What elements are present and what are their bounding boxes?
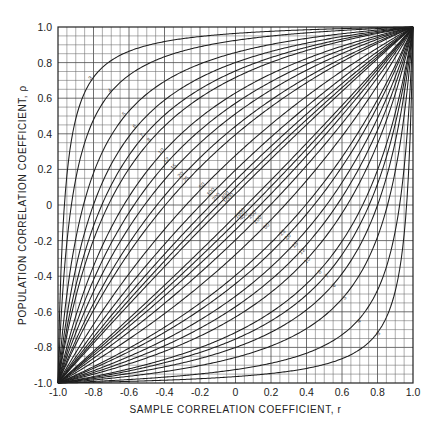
- x-axis-title: SAMPLE CORRELATION COEFFICIENT, r: [130, 404, 342, 415]
- y-tick-label: 1.0: [37, 21, 52, 33]
- y-tick-label: 0.2: [37, 163, 52, 175]
- x-tick-label: -0.4: [155, 386, 173, 398]
- y-tick-label: 0: [46, 199, 52, 211]
- x-tick-label: 0.2: [264, 386, 279, 398]
- y-tick-label: 0.8: [37, 57, 52, 69]
- curve-label-lower-n-8: 8: [316, 268, 322, 274]
- y-tick-label: -0.2: [34, 235, 52, 247]
- curve-label-upper-n-50: 50: [198, 181, 207, 190]
- plot-grid: [58, 27, 413, 383]
- x-axis-tick-labels: -1.0-0.8-0.6-0.4-0.200.20.40.60.81.0: [49, 386, 420, 398]
- y-axis-title: POPULATION CORRELATION COEFFICIENT, ρ: [17, 85, 28, 325]
- curve-label-upper-n-12: 12: [162, 156, 171, 165]
- curve-label-lower-n-10: 10: [303, 256, 312, 265]
- y-tick-label: 0.6: [37, 92, 52, 104]
- x-tick-label: -0.8: [84, 386, 102, 398]
- x-tick-label: 0.4: [299, 386, 314, 398]
- x-tick-label: 1.0: [406, 386, 421, 398]
- y-tick-label: -0.6: [34, 306, 52, 318]
- curve-label-upper-n-10: 10: [157, 147, 166, 156]
- x-tick-label: 0: [233, 386, 239, 398]
- y-tick-label: -0.4: [34, 270, 52, 282]
- x-tick-label: 0.8: [370, 386, 385, 398]
- x-tick-label: -0.2: [191, 386, 209, 398]
- confidence-belt-chart: 3344556677881010121215152020252550501001…: [0, 0, 441, 430]
- y-tick-label: -1.0: [34, 377, 52, 389]
- y-tick-label: 0.4: [37, 128, 52, 140]
- y-tick-label: -0.8: [34, 341, 52, 353]
- x-tick-label: -0.6: [120, 386, 138, 398]
- y-axis-tick-labels: 1.00.80.60.40.20-0.2-0.4-0.6-0.8-1.0: [34, 21, 52, 389]
- x-tick-label: 0.6: [335, 386, 350, 398]
- curve-label-lower-n-12: 12: [297, 247, 306, 256]
